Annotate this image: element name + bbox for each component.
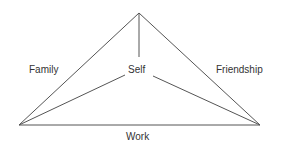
label-friendship: Friendship [216,64,263,76]
label-self: Self [128,64,145,76]
spoke-self-left [19,75,125,125]
label-work: Work [126,131,149,143]
label-family: Family [29,64,58,76]
spoke-self-right [153,76,260,125]
relationship-triangle-diagram: Family Self Friendship Work [0,0,287,147]
